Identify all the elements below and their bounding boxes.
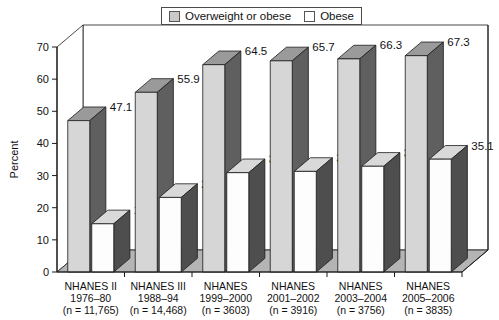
x-axis-category-label-line1: NHANES III	[131, 280, 186, 292]
legend-swatch-icon	[304, 11, 315, 22]
x-axis-category-label-line1: NHANES	[406, 280, 450, 292]
bar-side-face	[316, 158, 332, 272]
chart-legend: Overweight or obese Obese	[161, 7, 362, 25]
bar-value-label: 47.1	[110, 101, 132, 113]
bar-front-face	[405, 56, 427, 272]
x-axis-category-label-line3: (n = 3916)	[269, 304, 317, 316]
x-axis-category-label-line3: (n = 11,765)	[63, 304, 119, 316]
x-axis-category-label-line2: 1988–94	[138, 292, 179, 304]
bar-side-face	[181, 184, 197, 272]
bar-obese-0	[92, 210, 130, 272]
bar-front-face	[68, 121, 90, 272]
bar-front-face	[294, 171, 316, 272]
bar-obese-5	[429, 146, 467, 272]
y-axis-tick-label: 20	[37, 202, 49, 214]
bar-front-face	[362, 166, 384, 272]
y-axis-tick-label: 60	[37, 73, 49, 85]
y-axis-tick-label: 10	[37, 234, 49, 246]
x-axis-category-label-line1: NHANES	[339, 280, 383, 292]
y-axis-tick-label: 30	[37, 170, 49, 182]
x-axis-category-label-line3: (n = 14,468)	[130, 304, 187, 316]
y-axis-tick-label: 40	[37, 137, 49, 149]
bar-obese-2	[227, 159, 265, 272]
y-axis-tick-label: 70	[37, 41, 49, 53]
bar-value-label: 66.3	[380, 39, 402, 51]
bar-side-face	[451, 146, 467, 272]
bar-front-face	[159, 197, 181, 272]
bar-chart-3d: 010203040506070Percent47.115NHANES II197…	[0, 0, 499, 320]
bar-value-label: 64.5	[245, 45, 267, 57]
x-axis-category-label-line3: (n = 3835)	[404, 304, 452, 316]
x-axis-category-label-line3: (n = 3756)	[337, 304, 385, 316]
bar-value-label: 55.9	[177, 73, 199, 85]
legend-item-overweight-or-obese: Overweight or obese	[169, 10, 291, 22]
y-axis-tick-label: 0	[43, 266, 49, 278]
legend-label-obese: Obese	[320, 10, 354, 22]
bar-front-face	[92, 224, 114, 272]
bar-side-face	[384, 153, 400, 272]
bar-obese-1	[159, 184, 197, 272]
y-axis-tick-label: 50	[37, 105, 49, 117]
bar-front-face	[338, 59, 360, 272]
bar-value-label: 65.7	[312, 41, 334, 53]
bar-front-face	[270, 61, 292, 272]
x-axis-category-label-line2: 2001–2002	[267, 292, 320, 304]
x-axis-category-label-line2: 1999–2000	[199, 292, 252, 304]
bar-obese-4	[362, 153, 400, 272]
legend-item-obese: Obese	[304, 10, 354, 22]
bar-side-face	[249, 159, 265, 272]
bar-value-label: 35.1	[471, 140, 493, 152]
legend-label-overweight-or-obese: Overweight or obese	[185, 10, 291, 22]
bar-front-face	[227, 173, 249, 272]
bar-value-label: 67.3	[447, 36, 469, 48]
x-axis-category-label-line1: NHANES	[271, 280, 315, 292]
legend-swatch-icon	[169, 11, 180, 22]
bar-obese-3	[294, 158, 332, 272]
x-axis-category-label-line1: NHANES II	[64, 280, 117, 292]
x-axis-category-label-line2: 1976–80	[70, 292, 111, 304]
y-axis-title: Percent	[8, 141, 20, 179]
chart-page: 010203040506070Percent47.115NHANES II197…	[0, 0, 499, 320]
x-axis-category-label-line2: 2003–2004	[334, 292, 387, 304]
x-axis-category-label-line3: (n = 3603)	[202, 304, 250, 316]
x-axis-category-label-line2: 2005–2006	[402, 292, 455, 304]
x-axis-category-label-line1: NHANES	[204, 280, 248, 292]
bar-front-face	[203, 65, 225, 272]
bar-front-face	[135, 92, 157, 272]
bar-front-face	[429, 159, 451, 272]
